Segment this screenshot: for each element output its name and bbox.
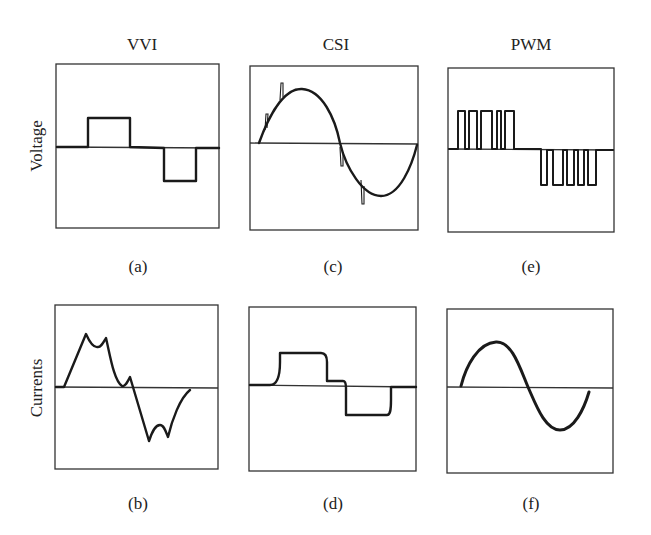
- panel-f-waveform: [461, 342, 589, 430]
- panel-c-frame: [250, 66, 418, 230]
- panel-c-spike-4: [361, 180, 364, 204]
- panel-c-waveform: [259, 89, 417, 196]
- panel-e-waveform: [449, 111, 613, 185]
- panel-d-waveform: [250, 353, 416, 415]
- panel-a-waveform: [57, 118, 219, 181]
- panel-b-axis: [55, 387, 218, 388]
- panel-c-axis: [250, 143, 418, 144]
- waveform-diagram: [0, 0, 651, 535]
